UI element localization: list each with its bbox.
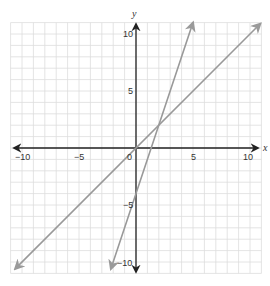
y-tick-10: 10 (123, 29, 133, 39)
origin-label: 0 (127, 152, 132, 162)
line-1 (15, 24, 260, 269)
y-tick-5: 5 (128, 86, 133, 96)
coordinate-plane: x y 0 −10 −5 5 10 10 5 −5 −10 (0, 0, 270, 286)
x-tick-neg10: −10 (15, 152, 30, 162)
line-2 (111, 23, 193, 269)
y-tick-neg5: −5 (123, 200, 133, 210)
y-axis-label: y (131, 8, 137, 19)
x-tick-neg5: −5 (74, 152, 84, 162)
x-tick-10: 10 (243, 152, 253, 162)
x-tick-5: 5 (191, 152, 196, 162)
x-axis-label: x (262, 142, 268, 153)
y-tick-neg10: −10 (117, 258, 132, 268)
plotted-lines (15, 23, 260, 269)
